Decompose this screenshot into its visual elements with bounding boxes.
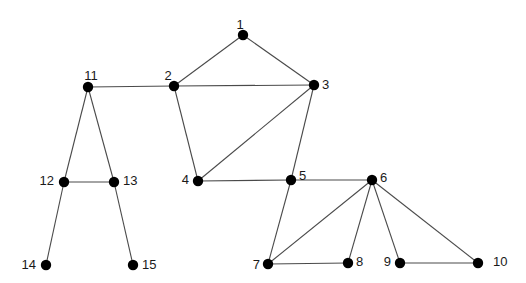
node-label-8: 8 — [356, 254, 363, 269]
edge-2-3 — [174, 85, 314, 86]
node-7 — [263, 259, 273, 269]
edge-7-8 — [268, 263, 348, 264]
nodes-layer — [41, 30, 483, 270]
graph-diagram: 123456789101112131415 — [0, 0, 526, 283]
node-label-2: 2 — [164, 68, 171, 83]
node-label-11: 11 — [84, 68, 98, 83]
edge-2-4 — [174, 86, 198, 181]
node-label-13: 13 — [123, 173, 137, 188]
node-label-6: 6 — [380, 170, 387, 185]
node-label-9: 9 — [384, 254, 391, 269]
labels-layer: 123456789101112131415 — [22, 17, 508, 272]
node-label-4: 4 — [182, 172, 189, 187]
node-6 — [367, 175, 377, 185]
edge-1-2 — [174, 35, 243, 86]
node-4 — [193, 176, 203, 186]
node-5 — [286, 175, 296, 185]
node-label-15: 15 — [142, 257, 156, 272]
edge-13-15 — [114, 182, 133, 265]
node-label-5: 5 — [299, 168, 306, 183]
edge-6-7 — [268, 180, 372, 264]
node-13 — [109, 177, 119, 187]
edge-11-12 — [64, 87, 88, 182]
edge-6-8 — [348, 180, 372, 263]
node-15 — [128, 260, 138, 270]
edge-4-5 — [198, 180, 291, 181]
node-9 — [395, 258, 405, 268]
edge-3-4 — [198, 85, 314, 181]
edge-5-7 — [268, 180, 291, 264]
edge-11-2 — [88, 86, 174, 87]
node-label-10: 10 — [493, 254, 507, 269]
node-8 — [343, 258, 353, 268]
edge-6-10 — [372, 180, 478, 263]
node-label-1: 1 — [236, 17, 243, 32]
graph-svg: 123456789101112131415 — [0, 0, 526, 283]
node-12 — [59, 177, 69, 187]
node-3 — [309, 80, 319, 90]
edge-6-9 — [372, 180, 400, 263]
node-label-14: 14 — [22, 257, 36, 272]
edges-layer — [46, 35, 478, 265]
edge-11-13 — [88, 87, 114, 182]
edge-3-5 — [291, 85, 314, 180]
node-label-3: 3 — [322, 77, 329, 92]
edge-12-14 — [46, 182, 64, 265]
node-14 — [41, 260, 51, 270]
edge-1-3 — [243, 35, 314, 85]
node-label-12: 12 — [40, 173, 54, 188]
node-label-7: 7 — [253, 257, 260, 272]
node-10 — [473, 258, 483, 268]
